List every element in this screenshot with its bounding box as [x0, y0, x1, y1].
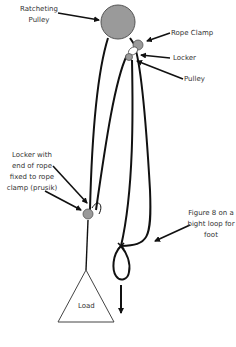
label-load: Load [78, 302, 95, 310]
figure8-loop [113, 246, 129, 279]
arrow-ratcheting-pulley [58, 13, 99, 20]
pulley-icon [126, 54, 133, 61]
label-line: end of rope [2, 161, 62, 172]
label-line: fixed to rope [2, 172, 62, 183]
label-line: bight loop for [186, 219, 236, 230]
label-rope-clamp: Rope Clamp [171, 28, 233, 39]
arrow-rope-clamp [147, 33, 170, 41]
label-locker-prusik: Locker with end of rope fixed to rope cl… [2, 150, 62, 194]
rope-to-load [86, 220, 88, 270]
label-line: foot [186, 230, 236, 241]
rope-pulley-right-strand [121, 60, 133, 246]
label-line: Locker [173, 53, 213, 64]
prusik-locker-icon [83, 209, 93, 219]
label-line: Ratcheting [14, 4, 64, 15]
label-figure8: Figure 8 on a bight loop for foot [186, 208, 236, 241]
arrow-figure8 [155, 225, 190, 241]
rope-clamp-strand [121, 38, 150, 246]
label-line: Locker with [2, 150, 62, 161]
rope-pulley-left-strand [96, 55, 127, 210]
label-ratcheting-pulley: Ratcheting Pulley [14, 4, 64, 26]
label-line: Pulley [184, 74, 224, 85]
arrow-locker [141, 55, 170, 58]
label-line: Figure 8 on a [186, 208, 236, 219]
label-pulley: Pulley [184, 74, 224, 85]
label-line: Rope Clamp [171, 28, 233, 39]
ratcheting-pulley-icon [101, 5, 135, 39]
label-line: Pulley [14, 15, 64, 26]
label-line: clamp (prusik) [2, 183, 62, 194]
label-locker: Locker [173, 53, 213, 64]
load-triangle [58, 270, 114, 322]
